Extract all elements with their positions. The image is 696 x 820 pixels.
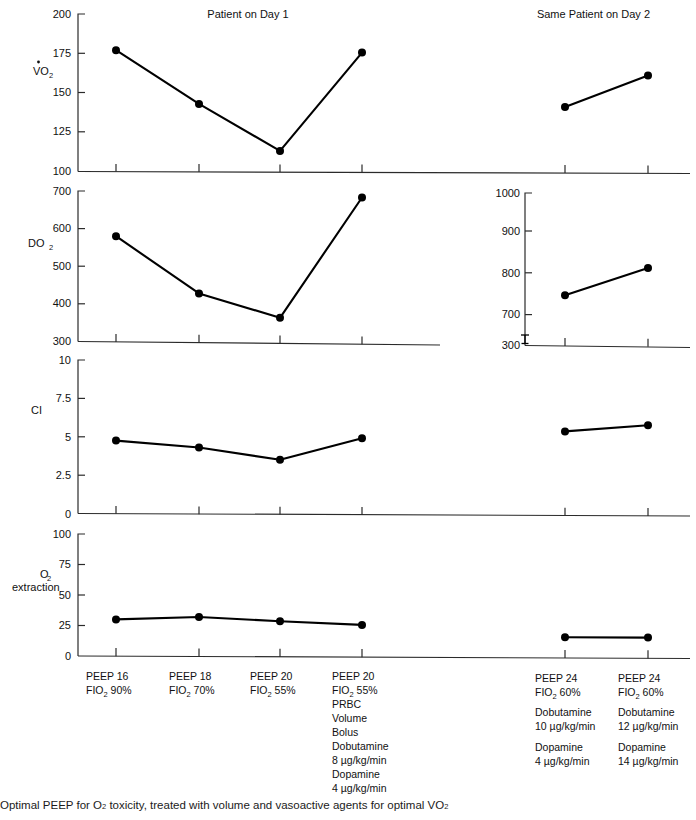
x-category-day1-0-line-0: PEEP 16 [86,670,129,682]
x-category-day2-1-line-4: 12 µg/kg/min [618,720,678,732]
ytick-o2e-1: 75 [59,558,71,570]
figure-container: Patient on Day 1 Same Patient on Day 2 V… [0,0,696,820]
x-category-day1-3-line-2: PRBC [332,698,362,710]
ytick-o2e-0: 100 [53,528,71,540]
x-category-day1-3-line-8: 4 µg/kg/min [332,782,387,794]
axis-label-o2-extraction: O 2 extraction [12,568,60,593]
x-category-day2-1-line-6: Dopamine [618,741,666,753]
x-category-day2-1-line-1: FIO2 60% [618,686,664,701]
ytick-do2l-2: 500 [53,260,71,272]
x-category-day2-0-line-0: PEEP 24 [535,672,578,684]
ci-day2-series [565,425,648,431]
panel-vo2: Patient on Day 1 Same Patient on Day 2 V… [33,8,690,177]
axis-label-vo2-sub: 2 [49,71,53,80]
do2-right-x-axis [525,346,690,348]
x-category-day1-1-line-0: PEEP 18 [169,670,212,682]
do2-right-axis-break-icon [521,335,529,344]
ytick-vo2-1: 175 [53,47,71,59]
ytick-do2r-0: 1000 [496,187,520,199]
panel-ci: CI 10 7.5 5 2.5 0 [31,354,690,520]
ytick-vo2-2: 150 [53,86,71,98]
x-category-day1-3-line-5: Dobutamine [332,740,389,752]
do2-right-y-ticks [525,231,532,315]
figure-caption: Optimal PEEP for O2 toxicity, treated wi… [0,798,696,814]
ytick-ci-1: 7.5 [56,392,71,404]
x-category-day1-1: PEEP 18FIO2 70% [169,670,215,699]
x-category-day2-0-line-4: 10 µg/kg/min [535,720,595,732]
axis-label-do2: DO 2 [28,237,53,252]
ytick-do2r-3: 700 [502,308,520,320]
do2-day2-series [565,268,648,295]
ci-day1-markers [112,434,366,464]
ytick-do2r-4: 300 [502,339,520,351]
panel-do2: DO 2 700 600 500 400 300 [28,185,690,351]
o2ext-y-ticks [78,565,85,626]
ytick-ci-3: 2.5 [56,469,71,481]
ytick-o2e-2: 50 [59,589,71,601]
x-category-day2-0-line-3: Dobutamine [535,706,592,718]
do2-day1-series [116,198,362,318]
x-category-day1-0-line-1: FIO2 90% [86,684,132,699]
axis-label-o2ext-line2: extraction [12,581,60,593]
panel-title-day2: Same Patient on Day 2 [537,8,650,20]
vo2-day1-markers [112,46,366,155]
x-category-day1-2: PEEP 20FIO2 55% [250,670,296,699]
x-axis-category-labels: PEEP 16FIO2 90%PEEP 18FIO2 70%PEEP 20FIO… [86,670,678,794]
ytick-ci-4: 0 [65,508,71,520]
x-category-day2-0-line-1: FIO2 60% [535,686,581,701]
x-category-day1-0: PEEP 16FIO2 90% [86,670,132,699]
ytick-do2r-1: 900 [502,225,520,237]
ytick-do2l-1: 600 [53,222,71,234]
ci-day1-series [116,438,362,460]
do2-left-y-ticks [78,229,85,304]
vo2-x-axis [78,172,690,174]
x-category-day2-0: PEEP 24FIO2 60%Dobutamine10 µg/kg/minDop… [535,672,595,767]
multi-panel-line-chart: Patient on Day 1 Same Patient on Day 2 V… [0,0,696,820]
ytick-do2l-3: 400 [53,297,71,309]
x-category-day1-3-line-1: FIO2 55% [332,684,378,699]
x-category-day1-2-line-0: PEEP 20 [250,670,293,682]
x-category-day2-1-line-0: PEEP 24 [618,672,661,684]
caption-sub-b: 2 [444,802,448,811]
axis-label-do2-main: DO [28,237,45,249]
axis-label-do2-sub: 2 [49,243,53,252]
x-category-day2-0-line-7: 4 µg/kg/min [535,755,590,767]
axis-label-vo2-main: VO [33,65,49,77]
ytick-vo2-4: 100 [53,165,71,177]
ytick-vo2-0: 200 [53,8,71,20]
vo2-y-ticks [78,53,85,132]
axis-label-vo2: VO 2 [33,61,53,80]
x-category-day2-0-line-6: Dopamine [535,741,583,753]
o2ext-x-axis [78,656,690,659]
do2-left-x-axis [78,342,440,346]
caption-part-b: toxicity, treated with volume and vasoac… [106,799,444,811]
ytick-vo2-3: 125 [53,125,71,137]
x-category-day1-3-line-7: Dopamine [332,768,380,780]
x-category-day2-1-line-3: Dobutamine [618,706,675,718]
axis-label-ci: CI [31,404,42,416]
ytick-o2e-4: 0 [65,650,71,662]
vo2-day2-series [565,75,648,107]
x-category-day2-1-line-7: 14 µg/kg/min [618,755,678,767]
ci-y-ticks [78,398,85,475]
x-category-day2-1: PEEP 24FIO2 60%Dobutamine12 µg/kg/minDop… [618,672,678,767]
x-category-day1-3-line-3: Volume [332,712,367,724]
panel-title-day1: Patient on Day 1 [207,8,288,20]
x-category-day1-3-line-0: PEEP 20 [332,670,375,682]
do2-right-x-ticks [565,338,648,347]
do2-day1-markers [112,194,366,322]
panel-o2-extraction: O 2 extraction 100 75 50 25 0 [12,528,690,662]
vo2-day1-series [116,50,362,151]
x-category-day1-1-line-1: FIO2 70% [169,684,215,699]
do2-right-y-axis [525,193,532,346]
x-category-day1-3-line-4: Bolus [332,726,358,738]
ytick-ci-0: 10 [59,354,71,366]
ytick-o2e-3: 25 [59,619,71,631]
ci-x-axis [78,514,690,517]
caption-part-a: Optimal PEEP for O [0,799,102,811]
x-category-day1-3-line-6: 8 µg/kg/min [332,754,387,766]
x-category-day1-2-line-1: FIO2 55% [250,684,296,699]
ytick-ci-2: 5 [65,431,71,443]
o2ext-day1-markers [112,613,366,629]
x-category-day1-3: PEEP 20FIO2 55%PRBCVolumeBolusDobutamine… [332,670,389,794]
